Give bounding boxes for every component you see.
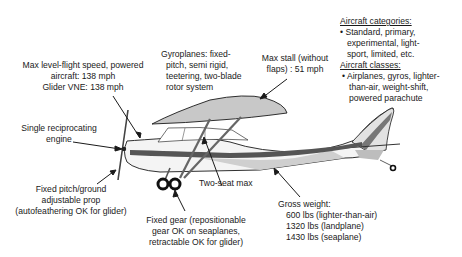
label-prop: Fixed pitch/ground adjustable prop (auto…: [10, 184, 132, 217]
label-max-speed: Max level-flight speed, powered aircraft…: [18, 60, 148, 93]
categories-title: Aircraft categories:: [340, 16, 440, 27]
classes-title: Aircraft classes:: [340, 60, 440, 71]
stabilizer-shadow: [355, 150, 384, 160]
label-gyroplanes: Gyroplanes: fixed- pitch, semi rigid, te…: [161, 49, 241, 93]
label-gross-weight: Gross weight: 600 lbs (lighter-than-air)…: [278, 199, 377, 243]
tailwheel-leg: [380, 160, 392, 166]
tailwheel: [391, 166, 396, 171]
label-gear: Fixed gear (repositionable gear OK on se…: [140, 215, 252, 248]
wing: [152, 96, 287, 124]
label-seats: Two-seat max: [199, 178, 253, 189]
wheel: [170, 179, 180, 189]
label-engine: Single reciprocating engine: [14, 123, 104, 145]
label-max-stall: Max stall (without flaps) : 51 mph: [256, 53, 334, 75]
legend: Aircraft categories: • Standard, primary…: [340, 16, 440, 104]
wheel: [158, 179, 168, 189]
